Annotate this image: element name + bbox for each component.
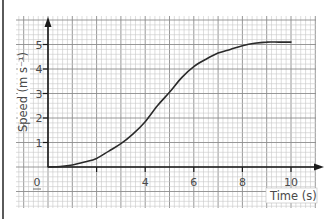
y-axis-title: Speed (m s⁻¹) <box>16 52 30 132</box>
x-axis-title: Time (s) <box>266 188 317 203</box>
x-tick-label: 0 <box>34 176 41 189</box>
y-tick-label: 5 <box>36 39 43 52</box>
x-tick-label: 6 <box>190 176 197 189</box>
y-tick-label: 2 <box>36 112 43 125</box>
graph-paper-grid <box>16 16 316 208</box>
y-axis-arrow-icon <box>45 17 52 27</box>
speed-time-chart: 04681012345 Speed (m s⁻¹) Time (s) <box>0 0 333 219</box>
y-tick-label: 1 <box>36 137 43 150</box>
x-axis-title-text: Time (s) <box>269 189 317 203</box>
x-tick-label: 10 <box>284 176 298 189</box>
y-tick-label: 3 <box>36 88 43 101</box>
x-tick-label: 8 <box>239 176 246 189</box>
y-axis-title-text: Speed (m s⁻¹) <box>16 52 30 132</box>
x-axis-arrow-icon <box>314 164 324 171</box>
y-tick-label: 4 <box>36 63 43 76</box>
x-tick-label: 4 <box>142 176 149 189</box>
